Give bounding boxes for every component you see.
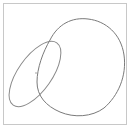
large-blob-shape[interactable] <box>37 19 125 116</box>
center-dot <box>35 72 37 74</box>
shapes-layer <box>0 0 132 128</box>
tilted-oval-shape[interactable] <box>0 33 71 115</box>
